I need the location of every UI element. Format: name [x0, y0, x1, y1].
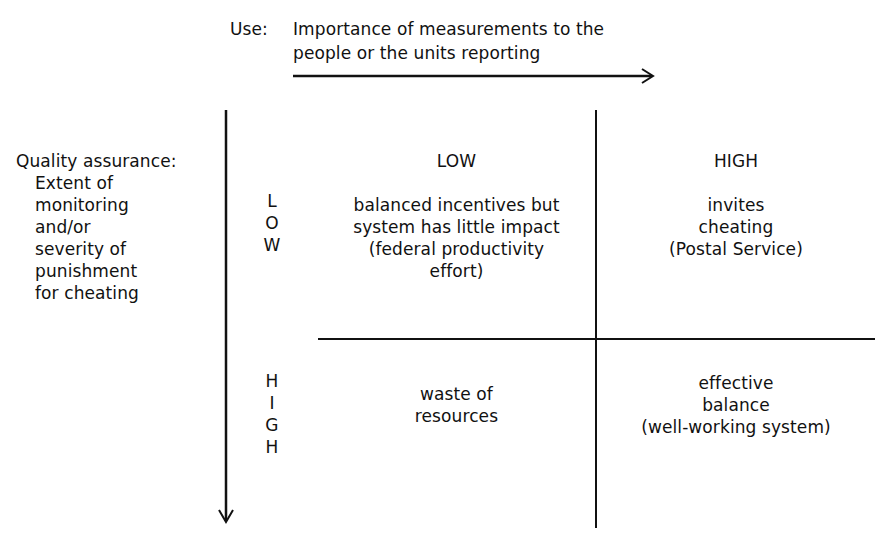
y-level-low-letter: O — [262, 212, 282, 234]
cell-text-line: system has little impact — [318, 216, 595, 238]
cell-text-line: (Postal Service) — [597, 238, 875, 260]
y-axis-label-line: punishment — [35, 260, 137, 282]
cell-text-line: effective — [597, 372, 875, 394]
cell-text-line: waste of — [318, 383, 595, 405]
cell-text-line: invites — [597, 194, 875, 216]
cell-low-high: invites cheating (Postal Service) — [597, 194, 875, 260]
x-axis-label-line2: people or the units reporting — [293, 42, 540, 64]
cell-text-line: balance — [597, 394, 875, 416]
horizontal-divider — [318, 338, 875, 340]
cell-text-line: cheating — [597, 216, 875, 238]
y-axis-label-line: and/or — [35, 216, 91, 238]
cell-high-low: waste of resources — [318, 383, 595, 427]
cell-low-low: balanced incentives but system has littl… — [318, 194, 595, 282]
y-axis-label-line: monitoring — [35, 194, 129, 216]
y-level-low-letter: W — [262, 234, 282, 256]
cell-text-line: (well-working system) — [597, 416, 875, 438]
x-axis-prefix: Use: — [230, 18, 268, 40]
cell-text-line: effort) — [318, 260, 595, 282]
cell-text-line: balanced incentives but — [318, 194, 595, 216]
down-arrow-icon — [214, 108, 238, 528]
cell-high-high: effective balance (well-working system) — [597, 372, 875, 438]
y-axis-title: Quality assurance: — [16, 150, 177, 172]
y-axis-label-line: severity of — [35, 238, 126, 260]
y-axis-label-line: for cheating — [35, 282, 139, 304]
y-level-high-letter: H — [262, 436, 282, 458]
column-header-low: LOW — [318, 150, 595, 172]
y-level-low-letter: L — [262, 190, 282, 212]
column-header-high: HIGH — [597, 150, 875, 172]
vertical-divider — [595, 110, 597, 528]
y-level-high-letter: I — [262, 392, 282, 414]
y-level-high-letter: H — [262, 370, 282, 392]
y-level-high-letter: G — [262, 414, 282, 436]
x-axis-label-line1: Importance of measurements to the — [293, 18, 604, 40]
right-arrow-icon — [290, 66, 660, 86]
y-axis-label-line: Extent of — [35, 172, 113, 194]
cell-text-line: resources — [318, 405, 595, 427]
cell-text-line: (federal productivity — [318, 238, 595, 260]
